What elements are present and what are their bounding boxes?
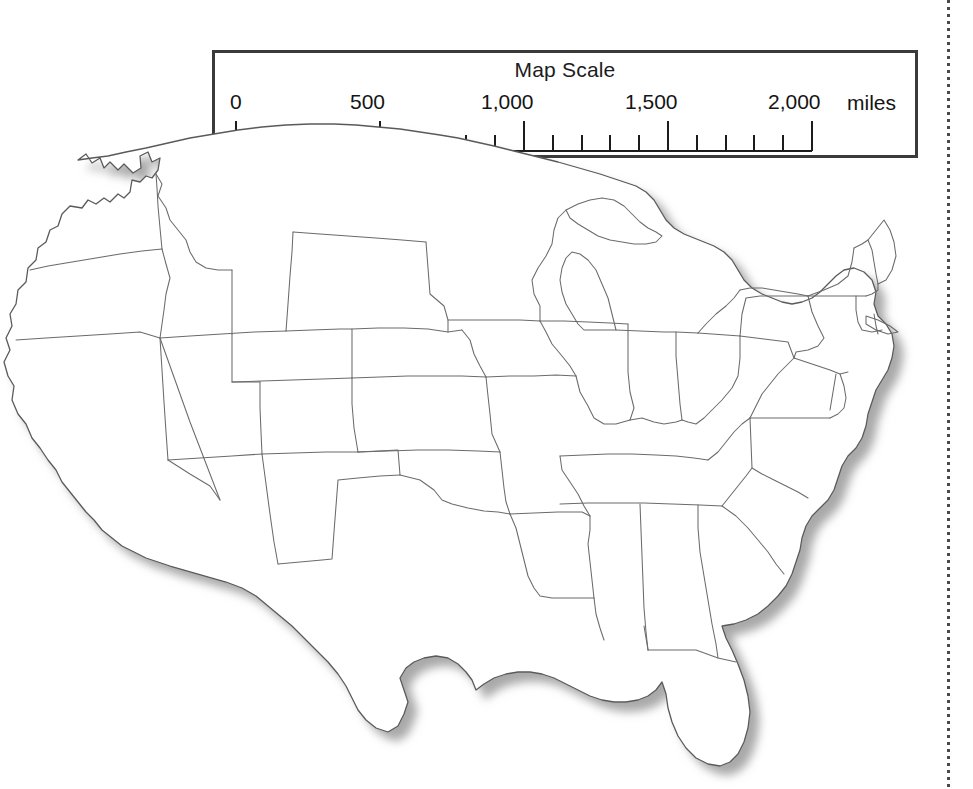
page-margin-dotted-rule [947,0,950,789]
scale-unit-label: miles [847,92,896,113]
scale-tick-label-500: 500 [350,91,385,112]
map-page: Map Scale 0 500 1,000 1,500 2,000 miles [0,0,973,789]
us-outline-map [0,118,973,789]
scale-tick-label-1000: 1,000 [481,91,534,112]
scale-tick-label-2000: 2,000 [768,91,821,112]
scale-tick-label-1500: 1,500 [625,91,678,112]
national-outline [4,124,894,766]
scale-tick-label-0: 0 [230,91,242,112]
us-landmass [4,124,894,766]
us-map-svg [0,118,973,789]
